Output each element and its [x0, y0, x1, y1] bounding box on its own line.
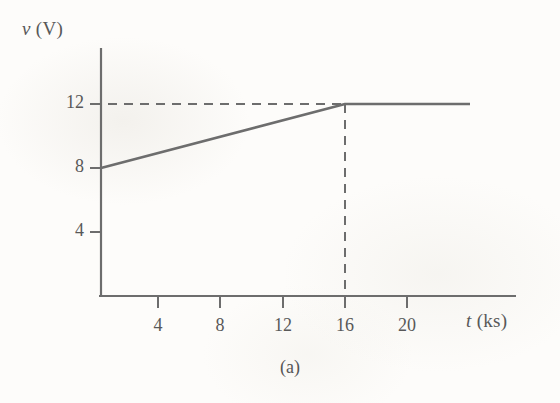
x-axis-label: t (ks) — [466, 310, 507, 332]
x-tick-label-4: 4 — [138, 315, 178, 336]
chart-plot-area — [0, 0, 560, 403]
y-tick-label-12: 12 — [50, 92, 84, 113]
x-tick-label-20: 20 — [387, 315, 427, 336]
figure-caption: (a) — [260, 357, 320, 378]
y-axis-label: v (V) — [22, 18, 63, 40]
y-tick-label-8: 8 — [50, 156, 84, 177]
x-axis-unit: (ks) — [477, 310, 508, 331]
x-tick-label-12: 12 — [263, 315, 303, 336]
y-tick-label-4: 4 — [50, 220, 84, 241]
x-tick-label-16: 16 — [325, 315, 365, 336]
y-axis-unit: (V) — [36, 18, 63, 39]
voltage-curve — [101, 104, 470, 168]
y-axis-variable: v — [22, 18, 31, 39]
figure-panel: v (V) t (ks) 12 8 4 4 8 12 16 20 (a) — [0, 0, 560, 403]
x-tick-label-8: 8 — [200, 315, 240, 336]
